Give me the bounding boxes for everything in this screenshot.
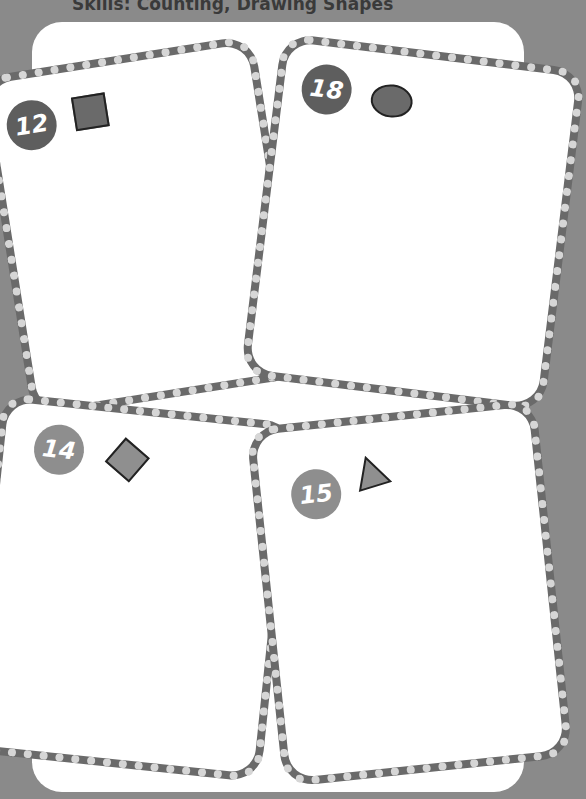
number-badge: 15 [289,467,344,522]
diamond-icon [105,437,150,482]
badge-number: 18 [308,74,345,106]
badge-number: 14 [41,434,77,465]
number-badge: 12 [3,97,60,154]
triangle-icon [354,453,394,493]
badge-number: 12 [13,109,50,142]
card-15: 15 [255,407,565,779]
oval-icon [369,82,415,120]
number-badge: 18 [299,62,355,118]
skills-heading: Skills: Counting, Drawing Shapes [72,0,393,14]
square-icon [71,92,110,131]
card-dotted-border [240,33,586,414]
card-dotted-border [246,398,573,787]
card-14: 14 [0,401,289,774]
number-badge: 14 [32,422,87,477]
badge-number: 15 [298,479,334,510]
card-18: 18 [249,42,577,405]
